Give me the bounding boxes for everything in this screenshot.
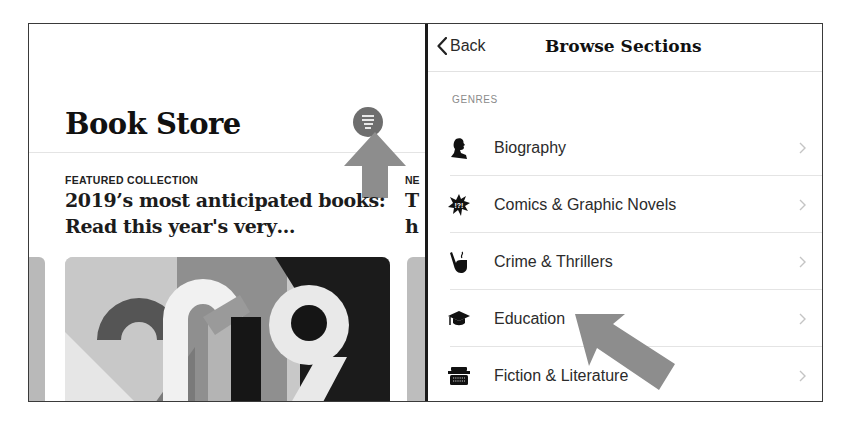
book-store-pane: Book Store FEATURED COLLECTION 2019’s mo… (29, 24, 425, 401)
chevron-right-icon (799, 256, 806, 268)
navigation-bar: Back Browse Sections (428, 24, 822, 72)
diagonal-arrow-annotation-icon (575, 314, 675, 390)
back-button[interactable]: Back (437, 37, 486, 55)
featured-headline[interactable]: 2019’s most anticipated books: Read this… (65, 187, 395, 239)
section-header-genres: GENRES (452, 94, 498, 105)
chevron-right-icon (799, 370, 806, 382)
featured-artwork-2019[interactable] (65, 257, 390, 401)
next-card-kicker: NE (405, 174, 420, 186)
genre-crime-thrillers[interactable]: Crime & Thrillers (428, 233, 822, 290)
next-card-artwork[interactable] (407, 257, 425, 401)
artwork-2019-icon (65, 257, 390, 401)
genre-comics-graphic-novels[interactable]: !?! Comics & Graphic Novels (428, 176, 822, 233)
screenshot-frame: Book Store FEATURED COLLECTION 2019’s mo… (28, 23, 823, 402)
graduation-cap-icon (448, 308, 470, 330)
svg-text:!?!: !?! (455, 202, 464, 209)
chevron-right-icon (799, 142, 806, 154)
page-title: Book Store (65, 107, 241, 141)
next-card-headline[interactable]: T h (405, 187, 419, 239)
nav-title: Browse Sections (545, 36, 702, 56)
chevron-left-icon (437, 37, 447, 55)
typewriter-icon (448, 365, 470, 387)
pipe-icon (448, 251, 470, 273)
chevron-right-icon (799, 313, 806, 325)
comics-burst-icon: !?! (448, 194, 470, 216)
chevron-right-icon (799, 199, 806, 211)
featured-kicker: FEATURED COLLECTION (65, 174, 198, 186)
back-label: Back (450, 37, 486, 55)
menu-icon (362, 115, 374, 117)
previous-card-artwork[interactable] (29, 257, 45, 401)
biography-silhouette-icon (448, 137, 470, 159)
genre-biography[interactable]: Biography (428, 119, 822, 176)
